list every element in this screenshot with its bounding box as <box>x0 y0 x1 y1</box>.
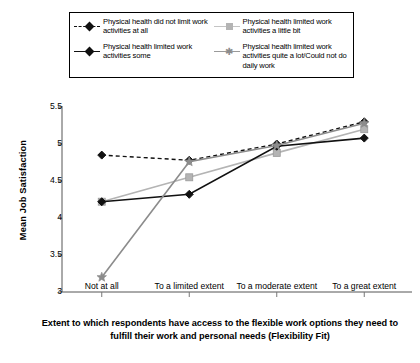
series-line-3 <box>102 123 365 277</box>
y-tick-label-4: 5 <box>36 138 62 148</box>
x-axis-title: Extent to which respondents have access … <box>40 317 400 342</box>
x-tick-label-3: To a great extent <box>316 281 412 292</box>
y-tick-label-2: 4 <box>36 212 62 222</box>
y-tick-label-5: 5.5 <box>36 101 62 111</box>
line-chart: Mean Job Satisfaction 33.544.555.5 Not a… <box>0 0 420 363</box>
x-tick-label-0: Not at all <box>54 281 150 292</box>
x-tick-label-2: To a moderate extent <box>229 281 325 292</box>
y-axis-tick-labels: 33.544.555.5 <box>34 0 62 363</box>
x-tick-label-1: To a limited extent <box>141 281 237 292</box>
data-point-0-0 <box>98 151 106 159</box>
y-tick-label-3: 4.5 <box>36 175 62 185</box>
y-tick-label-1: 3.5 <box>36 249 62 259</box>
y-axis-title: Mean Job Satisfaction <box>18 105 28 275</box>
data-point-2-3 <box>360 134 368 142</box>
series-line-2 <box>102 138 365 202</box>
data-point-2-1 <box>185 190 193 198</box>
series-line-1 <box>102 129 365 202</box>
data-point-1-1 <box>186 174 193 181</box>
chart-canvas <box>0 0 420 363</box>
